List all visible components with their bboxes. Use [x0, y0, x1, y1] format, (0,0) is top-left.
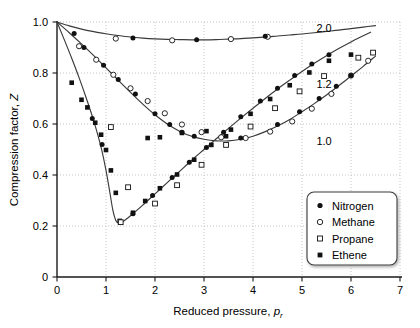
data-point-nitrogen: [133, 91, 138, 96]
data-point-methane: [199, 130, 204, 135]
data-point-ethene: [209, 143, 214, 148]
data-point-nitrogen: [297, 109, 302, 114]
legend-item-nitrogen-label: Nitrogen: [332, 200, 374, 212]
data-point-methane: [162, 111, 167, 116]
data-point-propane: [224, 143, 229, 148]
data-point-methane: [268, 129, 273, 134]
filled-square-icon: [318, 253, 323, 258]
data-point-nitrogen: [258, 99, 263, 104]
data-point-propane: [175, 183, 180, 188]
data-point-nitrogen: [100, 142, 105, 147]
compression-factor-chart: 01234567 00.20.40.60.81.0 2.01.21.0 Redu…: [0, 0, 420, 328]
data-point-ethene: [109, 168, 114, 173]
data-point-nitrogen: [275, 122, 280, 127]
data-point-nitrogen: [194, 37, 199, 42]
data-point-nitrogen: [101, 63, 106, 68]
open-circle-icon: [317, 219, 322, 224]
data-point-nitrogen: [221, 130, 226, 135]
data-point-ethene: [93, 120, 98, 125]
data-point-propane: [109, 125, 114, 130]
data-point-ethene: [145, 136, 150, 141]
isotherm-label-2-0: 2.0: [316, 22, 331, 34]
y-tick-label-1.0: 1.0: [33, 16, 48, 28]
x-tick-label-2: 2: [152, 284, 158, 296]
data-point-methane: [290, 119, 295, 124]
data-point-methane: [228, 36, 233, 41]
data-point-nitrogen: [116, 77, 121, 82]
data-point-ethene: [158, 135, 163, 140]
data-point-nitrogen: [349, 73, 354, 78]
data-point-nitrogen: [263, 34, 268, 39]
legend-item-methane-label: Methane: [332, 216, 375, 228]
data-point-nitrogen: [292, 73, 297, 78]
data-point-ethene: [85, 105, 90, 110]
data-point-methane: [145, 98, 150, 103]
data-point-propane: [297, 89, 302, 94]
data-point-ethene: [143, 199, 148, 204]
legend: NitrogenMethanePropaneEthene: [307, 192, 397, 265]
legend-item-ethene-label: Ethene: [332, 249, 367, 261]
data-point-nitrogen: [170, 175, 175, 180]
open-square-icon: [318, 236, 323, 241]
data-point-propane: [356, 55, 361, 60]
data-point-methane: [219, 135, 224, 140]
data-point-propane: [126, 185, 131, 190]
data-point-ethene: [99, 132, 104, 137]
data-point-nitrogen: [130, 36, 135, 41]
data-point-nitrogen: [317, 96, 322, 101]
data-point-methane: [76, 44, 81, 49]
data-point-nitrogen: [238, 136, 243, 141]
isotherm-label-1-0: 1.0: [316, 135, 331, 147]
data-point-methane: [243, 135, 248, 140]
data-point-nitrogen: [275, 86, 280, 91]
data-point-nitrogen: [150, 193, 155, 198]
legend-item-propane-label: Propane: [332, 233, 374, 245]
data-point-ethene: [349, 52, 354, 57]
data-point-methane: [309, 106, 314, 111]
data-point-nitrogen: [334, 84, 339, 89]
data-point-ethene: [69, 80, 74, 85]
data-point-propane: [371, 50, 376, 55]
data-point-nitrogen: [179, 130, 184, 135]
data-point-methane: [113, 36, 118, 41]
data-point-propane: [273, 106, 278, 111]
data-point-ethene: [229, 127, 234, 132]
x-tick-label-1: 1: [103, 284, 109, 296]
data-point-propane: [153, 201, 158, 206]
x-tick-label-3: 3: [201, 284, 207, 296]
data-point-ethene: [175, 172, 180, 177]
x-tick-label-4: 4: [250, 284, 256, 296]
data-point-methane: [94, 57, 99, 62]
data-point-ethene: [248, 112, 253, 117]
data-point-methane: [366, 58, 371, 63]
data-point-ethene: [204, 129, 209, 134]
data-point-nitrogen: [153, 111, 158, 116]
data-point-propane: [199, 162, 204, 167]
data-point-nitrogen: [90, 116, 95, 121]
data-point-ethene: [158, 186, 163, 191]
y-tick-label-0.4: 0.4: [33, 169, 48, 181]
data-point-nitrogen: [204, 145, 209, 150]
data-point-nitrogen: [187, 160, 192, 165]
data-point-ethene: [192, 157, 197, 162]
filled-circle-icon: [317, 203, 322, 208]
y-tick-label-0.8: 0.8: [33, 67, 48, 79]
data-point-ethene: [287, 83, 292, 88]
data-point-nitrogen: [72, 31, 77, 36]
data-point-nitrogen: [192, 134, 197, 139]
data-point-ethene: [104, 148, 109, 153]
data-point-ethene: [327, 58, 332, 63]
data-point-propane: [118, 220, 123, 225]
data-point-nitrogen: [238, 114, 243, 119]
data-point-ethene: [224, 134, 229, 139]
data-point-ethene: [268, 97, 273, 102]
data-point-methane: [179, 122, 184, 127]
data-point-nitrogen: [326, 52, 331, 57]
data-point-methane: [170, 38, 175, 43]
x-tick-label-6: 6: [348, 284, 354, 296]
data-point-methane: [128, 86, 133, 91]
x-tick-label-0: 0: [54, 284, 60, 296]
data-point-ethene: [79, 97, 84, 102]
figure-container: 01234567 00.20.40.60.81.0 2.01.21.0 Redu…: [0, 0, 420, 328]
y-tick-label-0.6: 0.6: [33, 118, 48, 130]
